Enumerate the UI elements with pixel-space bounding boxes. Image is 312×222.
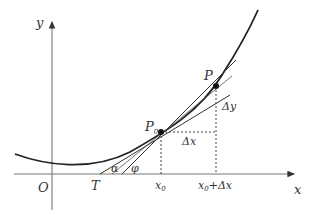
point-p — [213, 83, 219, 89]
secant-line — [122, 60, 236, 174]
y-axis-label: y — [35, 15, 44, 30]
x-axis-label: x — [294, 182, 302, 197]
origin-label: O — [38, 180, 49, 195]
phi-label: φ — [131, 162, 139, 175]
alpha-label: α — [111, 162, 119, 175]
dy-label: Δy — [221, 100, 237, 113]
point-p0-label: P0 — [144, 119, 159, 136]
tangent-line — [100, 95, 230, 174]
secant-line-2 — [112, 76, 232, 174]
dx-label: Δx — [181, 135, 197, 148]
point-p0 — [158, 129, 164, 135]
point-p-label: P — [203, 68, 213, 83]
x0-tick-label: x0 — [155, 179, 166, 193]
x0dx-tick-label: x0+Δx — [198, 179, 233, 193]
diagram-canvas: y x O T P0 P α φ Δx Δy x0 x0+Δx — [0, 0, 312, 222]
point-t-label: T — [91, 178, 101, 193]
